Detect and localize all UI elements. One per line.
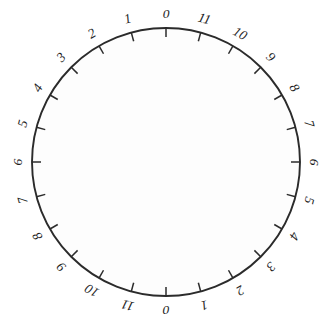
dial-label-5-19: 5 [15, 118, 31, 129]
dial-label-1-11: 1 [199, 297, 209, 313]
dial-label-0-12: 0 [162, 303, 169, 318]
dial-label-7-17: 7 [14, 194, 31, 206]
dial-label-4-20: 4 [29, 81, 45, 95]
circular-dial-figure: 0111098765432101110987654321 [0, 0, 334, 333]
dial-label-8-4: 8 [286, 81, 302, 95]
dial-label-6-6: 6 [307, 159, 322, 166]
dial-label-5-7: 5 [301, 195, 317, 206]
dial-label-9-3: 9 [263, 49, 279, 65]
dial-label-0-0: 0 [163, 6, 170, 21]
dial-label-10-2: 10 [231, 24, 250, 44]
dial-label-4-8: 4 [286, 230, 302, 244]
dial-canvas: 0111098765432101110987654321 [0, 0, 334, 333]
dial-label-7-5: 7 [301, 118, 318, 130]
dial-label-8-16: 8 [29, 229, 45, 243]
dial-label-1-23: 1 [122, 11, 132, 27]
dial-label-10-14: 10 [82, 281, 101, 301]
dial-label-11-13: 11 [120, 296, 136, 314]
dial-label-6-18: 6 [10, 158, 25, 165]
dial-label-11-1: 11 [196, 10, 212, 28]
dial-label-3-21: 3 [53, 49, 69, 65]
dial-label-2-22: 2 [85, 25, 99, 41]
dial-label-2-10: 2 [233, 282, 247, 298]
dial-label-9-15: 9 [53, 259, 69, 275]
dial-label-3-9: 3 [263, 259, 279, 275]
